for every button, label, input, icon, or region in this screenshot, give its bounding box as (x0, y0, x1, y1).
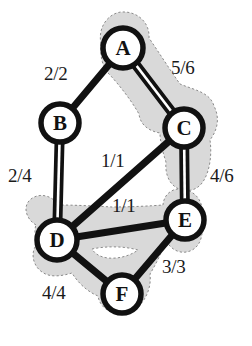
node-C-label: C (176, 116, 191, 140)
node-D[interactable]: D (37, 220, 77, 260)
node-B-label: B (53, 111, 67, 135)
edge-label-C-D: 1/1 (101, 151, 124, 170)
edge-label-E-F: 3/3 (162, 257, 185, 276)
edge-label-A-B: 2/2 (44, 64, 67, 83)
node-E-label: E (178, 208, 192, 232)
node-F[interactable]: F (103, 275, 141, 313)
node-C[interactable]: C (165, 109, 203, 147)
node-B[interactable]: B (41, 104, 79, 142)
node-A[interactable]: A (103, 28, 143, 68)
node-E[interactable]: E (166, 201, 204, 239)
edge-label-A-C: 5/6 (171, 58, 194, 77)
edge-label-C-E: 4/6 (210, 166, 233, 185)
edge-label-D-E: 1/1 (112, 196, 135, 215)
edge-label-D-F: 4/4 (42, 283, 65, 302)
graph-figure: A B C D E F 2/2 (0, 0, 252, 346)
edge-label-B-D: 2/4 (8, 166, 31, 185)
node-F-label: F (116, 282, 129, 306)
node-D-label: D (49, 228, 64, 252)
node-A-label: A (115, 36, 131, 60)
